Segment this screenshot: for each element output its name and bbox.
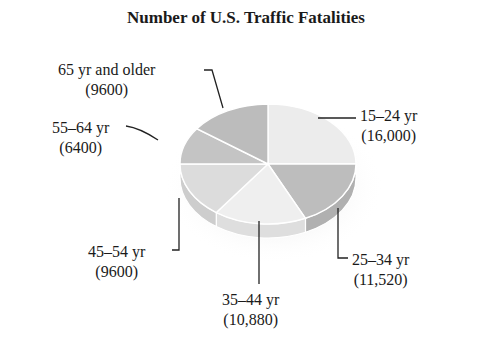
label-35-44: 35–44 yr (10,880) [222,290,279,330]
label-name: 15–24 yr [360,106,417,126]
label-value: (10,880) [222,310,279,330]
label-value: (6400) [52,138,109,158]
pie-slice-0 [268,104,356,164]
label-name: 55–64 yr [52,118,109,138]
label-name: 45–54 yr [88,242,145,262]
label-value: (9600) [58,80,155,100]
leader-65-older [204,70,223,108]
label-15-24: 15–24 yr (16,000) [360,106,417,146]
label-name: 25–34 yr [352,250,409,270]
pie-body [180,104,356,238]
label-name: 65 yr and older [58,60,155,80]
label-name: 35–44 yr [222,290,279,310]
label-value: (16,000) [360,126,417,146]
label-55-64: 55–64 yr (6400) [52,118,109,158]
label-25-34: 25–34 yr (11,520) [352,250,409,290]
label-value: (9600) [88,262,145,282]
leader-55-64 [126,126,158,140]
label-65-older: 65 yr and older (9600) [58,60,155,100]
label-value: (11,520) [352,270,409,290]
label-45-54: 45–54 yr (9600) [88,242,145,282]
